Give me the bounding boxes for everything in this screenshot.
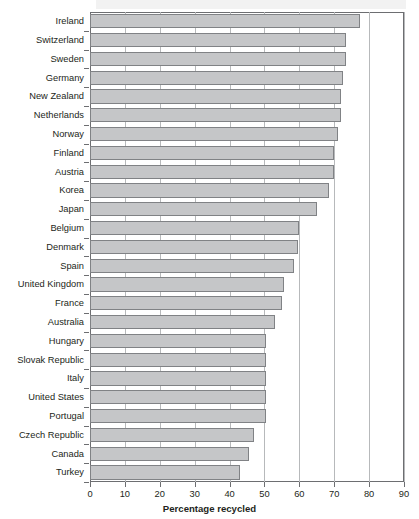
- x-tick-label-20: 20: [155, 489, 165, 500]
- x-tick-label-60: 60: [294, 489, 304, 500]
- bar-row: [90, 238, 404, 257]
- category-label-czech-republic: Czech Republic: [0, 430, 84, 440]
- bar-row: [90, 369, 404, 388]
- category-label-new-zealand: New Zealand: [0, 91, 84, 101]
- bar-italy: [90, 371, 266, 385]
- bar-norway: [90, 127, 338, 141]
- bar-ireland: [90, 14, 360, 28]
- bar-row: [90, 256, 404, 275]
- bar-row: [90, 106, 404, 125]
- bar-row: [90, 407, 404, 426]
- category-label-belgium: Belgium: [0, 223, 84, 233]
- bar-germany: [90, 71, 343, 85]
- category-tick: [84, 463, 89, 464]
- x-tick-30: [195, 482, 196, 487]
- category-label-korea: Korea: [0, 185, 84, 195]
- bar-canada: [90, 447, 249, 461]
- bar-denmark: [90, 240, 298, 254]
- bar-row: [90, 444, 404, 463]
- x-tick-label-0: 0: [87, 489, 92, 500]
- x-tick-10: [125, 482, 126, 487]
- category-label-sweden: Sweden: [0, 54, 84, 64]
- bar-finland: [90, 146, 334, 160]
- category-tick: [84, 444, 89, 445]
- bar-row: [90, 144, 404, 163]
- category-label-netherlands: Netherlands: [0, 110, 84, 120]
- category-tick: [84, 87, 89, 88]
- bar-netherlands: [90, 108, 341, 122]
- bar-row: [90, 87, 404, 106]
- category-tick: [84, 350, 89, 351]
- x-tick-50: [264, 482, 265, 487]
- category-label-spain: Spain: [0, 261, 84, 271]
- bar-switzerland: [90, 33, 346, 47]
- category-label-united-kingdom: United Kingdom: [0, 279, 84, 289]
- bar-slovak-republic: [90, 353, 266, 367]
- bar-united-kingdom: [90, 277, 284, 291]
- category-axis-labels: IrelandSwitzerlandSwedenGermanyNew Zeala…: [0, 12, 84, 482]
- bar-row: [90, 219, 404, 238]
- x-tick-70: [334, 482, 335, 487]
- category-label-turkey: Turkey: [0, 467, 84, 477]
- x-tick-label-40: 40: [224, 489, 234, 500]
- bars-container: [90, 12, 404, 482]
- bar-turkey: [90, 465, 240, 479]
- category-tick: [84, 144, 89, 145]
- category-label-united-states: United States: [0, 392, 84, 402]
- bar-row: [90, 125, 404, 144]
- bar-czech-republic: [90, 428, 254, 442]
- category-tick: [84, 200, 89, 201]
- category-tick: [84, 238, 89, 239]
- bar-row: [90, 50, 404, 69]
- category-tick: [84, 68, 89, 69]
- bar-row: [90, 181, 404, 200]
- bar-korea: [90, 183, 329, 197]
- recycling-bar-chart: IrelandSwitzerlandSwedenGermanyNew Zeala…: [0, 0, 419, 519]
- category-label-switzerland: Switzerland: [0, 35, 84, 45]
- category-label-australia: Australia: [0, 317, 84, 327]
- x-tick-20: [160, 482, 161, 487]
- category-tick: [84, 125, 89, 126]
- bar-spain: [90, 259, 294, 273]
- x-tick-label-50: 50: [259, 489, 269, 500]
- category-label-norway: Norway: [0, 129, 84, 139]
- x-tick-0: [90, 482, 91, 487]
- gridline-90: [404, 12, 405, 482]
- category-label-germany: Germany: [0, 73, 84, 83]
- bar-row: [90, 426, 404, 445]
- bar-belgium: [90, 221, 299, 235]
- bar-new-zealand: [90, 89, 341, 103]
- x-axis-title: Percentage recycled: [0, 503, 419, 514]
- bar-hungary: [90, 334, 266, 348]
- x-tick-40: [230, 482, 231, 487]
- x-tick-label-30: 30: [189, 489, 199, 500]
- category-label-finland: Finland: [0, 148, 84, 158]
- x-tick-80: [369, 482, 370, 487]
- bar-row: [90, 294, 404, 313]
- x-tick-label-10: 10: [120, 489, 130, 500]
- category-tick: [84, 162, 89, 163]
- bar-row: [90, 332, 404, 351]
- category-tick: [84, 332, 89, 333]
- bar-row: [90, 31, 404, 50]
- bar-sweden: [90, 52, 346, 66]
- top-edge-artifact: [96, 0, 406, 9]
- category-label-hungary: Hungary: [0, 336, 84, 346]
- category-label-italy: Italy: [0, 373, 84, 383]
- category-tick: [84, 313, 89, 314]
- x-tick-label-70: 70: [329, 489, 339, 500]
- category-tick: [84, 426, 89, 427]
- x-axis-ticks: [90, 482, 405, 488]
- category-tick: [84, 256, 89, 257]
- bar-japan: [90, 202, 317, 216]
- category-label-ireland: Ireland: [0, 16, 84, 26]
- category-label-canada: Canada: [0, 449, 84, 459]
- bar-row: [90, 200, 404, 219]
- category-label-austria: Austria: [0, 167, 84, 177]
- category-label-slovak-republic: Slovak Republic: [0, 355, 84, 365]
- bar-row: [90, 388, 404, 407]
- category-label-france: France: [0, 298, 84, 308]
- category-tick: [84, 275, 89, 276]
- bar-united-states: [90, 390, 266, 404]
- bar-row: [90, 463, 404, 482]
